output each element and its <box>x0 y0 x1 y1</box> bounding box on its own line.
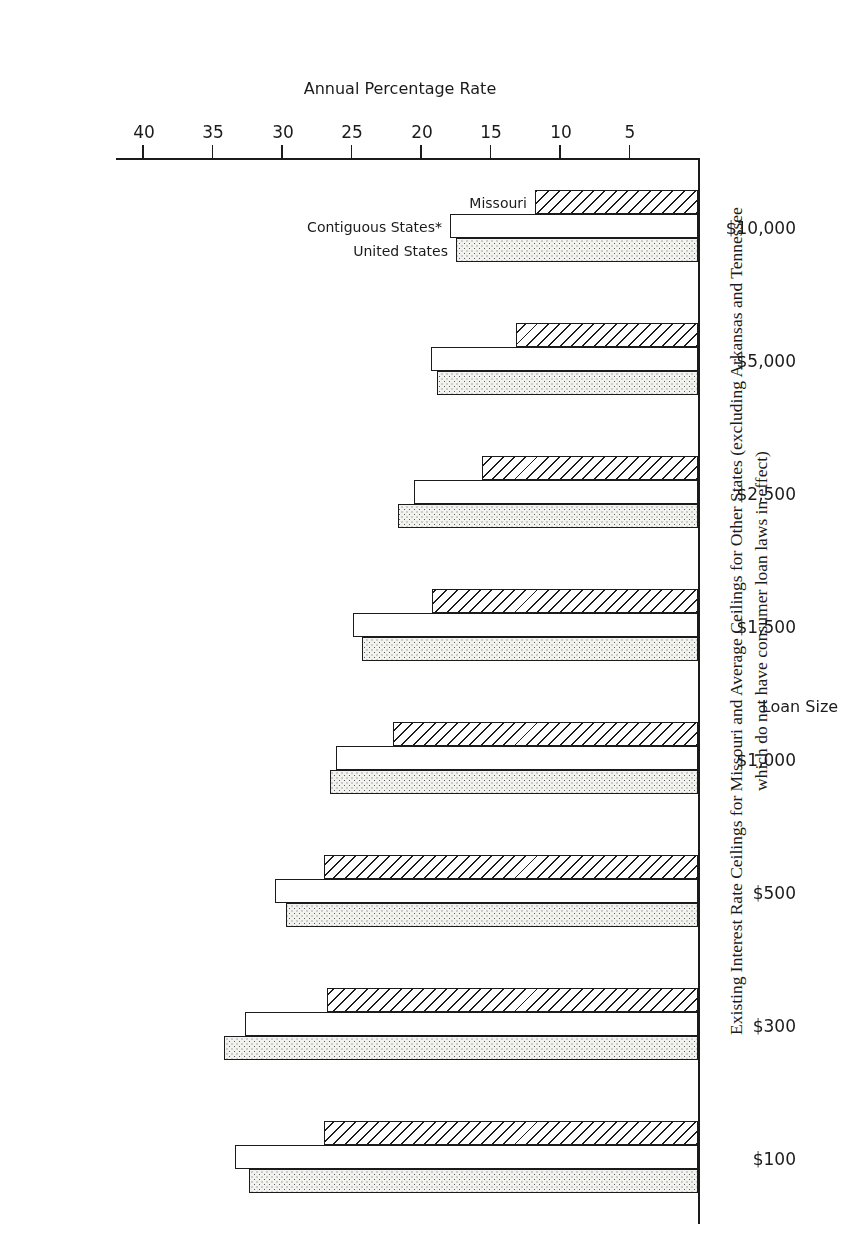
category-label: $10,000 <box>710 219 796 239</box>
value-tick <box>490 145 492 158</box>
category-label: $100 <box>710 1150 796 1170</box>
bar-contiguous <box>245 1013 698 1037</box>
plot-area: MissouriContiguous States*United States … <box>88 134 700 1224</box>
bar-united <box>249 1170 698 1194</box>
bar-missouri <box>394 723 699 747</box>
series-label-united: United States <box>353 244 448 260</box>
value-tick-label: 25 <box>329 122 375 142</box>
category-axis-title: Loan Size <box>650 697 842 716</box>
bar-united <box>398 505 698 529</box>
value-tick-label: 30 <box>260 122 306 142</box>
value-tick-label: 5 <box>607 122 653 142</box>
bar-united <box>456 239 698 263</box>
bar-group <box>114 1091 698 1224</box>
value-tick <box>212 145 214 158</box>
bar-group <box>114 426 698 559</box>
value-tick-label: 35 <box>190 122 236 142</box>
bar-group <box>114 293 698 426</box>
category-label: $1,000 <box>710 751 796 771</box>
value-tick <box>420 145 422 158</box>
bar-contiguous <box>275 880 698 904</box>
bar-missouri <box>327 989 698 1013</box>
bar-group: MissouriContiguous States*United States <box>114 160 698 293</box>
bar-united <box>286 904 698 928</box>
bar-missouri <box>432 590 698 614</box>
category-label: $2,500 <box>710 485 796 505</box>
bar-contiguous <box>336 747 698 771</box>
bar-united <box>224 1037 698 1061</box>
category-axis-line <box>698 160 700 1224</box>
category-label: $300 <box>710 1017 796 1037</box>
bar-united <box>362 638 698 662</box>
bar-contiguous <box>431 348 698 372</box>
bar-contiguous <box>353 614 698 638</box>
bar-group <box>114 825 698 958</box>
series-label-contiguous: Contiguous States* <box>308 220 443 236</box>
category-label: $500 <box>710 884 796 904</box>
bar-group <box>114 958 698 1091</box>
bar-missouri <box>324 856 698 880</box>
value-tick-label: 10 <box>538 122 584 142</box>
bar-group <box>114 559 698 692</box>
bar-missouri <box>516 324 698 348</box>
category-label: $5,000 <box>710 352 796 372</box>
value-tick-label: 15 <box>468 122 514 142</box>
bar-group <box>114 692 698 825</box>
bar-contiguous <box>235 1146 698 1170</box>
bar-contiguous <box>451 215 699 239</box>
bar-united <box>330 771 698 795</box>
category-label: $1,500 <box>710 618 796 638</box>
bar-missouri <box>324 1122 698 1146</box>
bar-contiguous <box>414 481 698 505</box>
value-tick <box>559 145 561 158</box>
value-tick-label: 20 <box>399 122 445 142</box>
bar-missouri <box>535 191 698 215</box>
value-tick <box>281 145 283 158</box>
bar-united <box>437 372 698 396</box>
value-tick-label: 40 <box>121 122 167 142</box>
series-label-missouri: Missouri <box>470 196 528 212</box>
value-tick <box>142 145 144 158</box>
value-axis-title: Annual Percentage Rate <box>270 79 530 98</box>
value-tick <box>351 145 353 158</box>
value-tick <box>629 145 631 158</box>
bar-missouri <box>482 457 698 481</box>
